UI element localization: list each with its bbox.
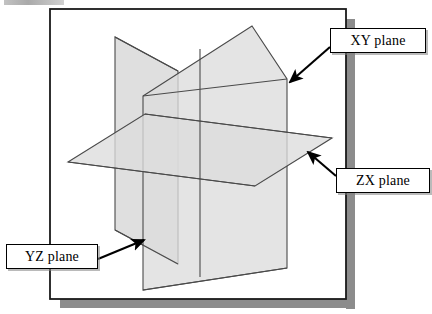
callout-text-xy: XY plane [350, 34, 405, 48]
figure-canvas: XY plane ZX plane YZ plane [0, 0, 432, 314]
callout-text-yz: YZ plane [25, 250, 79, 264]
callout-text-zx: ZX plane [356, 174, 410, 188]
callout-label-yz-plane: YZ plane [6, 244, 98, 269]
callout-label-zx-plane: ZX plane [336, 168, 430, 193]
callout-label-xy-plane: XY plane [330, 28, 426, 53]
